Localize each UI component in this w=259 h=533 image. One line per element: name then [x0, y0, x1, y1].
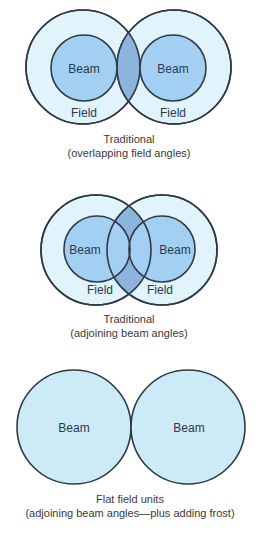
- beam-label-right: Beam: [159, 243, 190, 257]
- beam-label-right: Beam: [173, 421, 204, 435]
- beam-label-left: Beam: [69, 243, 100, 257]
- panel-flat-field: Beam Beam Flat field units (adjoining be…: [17, 370, 245, 519]
- caption-title: Traditional: [104, 133, 155, 145]
- field-label-left: Field: [71, 106, 97, 120]
- panel-traditional-adjoining: Beam Beam Field Field Traditional (adjoi…: [41, 195, 217, 339]
- caption-title: Traditional: [104, 313, 155, 325]
- beam-label-left: Beam: [58, 421, 89, 435]
- caption-subtitle: (overlapping field angles): [68, 147, 191, 159]
- field-label-right: Field: [147, 283, 173, 297]
- panel-traditional-overlapping: Beam Beam Field Field Traditional (overl…: [26, 10, 231, 159]
- caption-title: Flat field units: [96, 493, 164, 505]
- field-label-right: Field: [160, 106, 186, 120]
- caption-subtitle: (adjoining beam angles—plus adding frost…: [25, 507, 234, 519]
- beam-label-right: Beam: [157, 62, 188, 76]
- beam-field-diagram: Beam Beam Field Field Traditional (overl…: [0, 0, 259, 533]
- field-label-left: Field: [87, 283, 113, 297]
- caption-subtitle: (adjoining beam angles): [70, 327, 187, 339]
- beam-label-left: Beam: [68, 62, 99, 76]
